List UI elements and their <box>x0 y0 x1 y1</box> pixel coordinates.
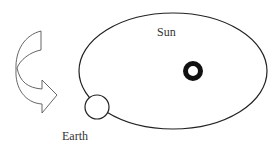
curved-arrow-icon <box>16 31 57 113</box>
sun-label: Sun <box>157 25 176 40</box>
earth-icon <box>85 95 109 119</box>
sun-icon <box>186 64 201 79</box>
earth-label: Earth <box>62 129 88 144</box>
orbit-diagram <box>0 0 280 151</box>
